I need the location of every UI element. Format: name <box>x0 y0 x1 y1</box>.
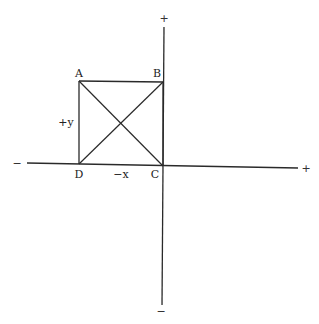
vertical-positive-label: + <box>159 12 168 25</box>
vertex-label-b: B <box>153 67 161 80</box>
diagram-canvas: + − − + A B C D −x +y <box>0 0 319 324</box>
horizontal-negative-label: − <box>12 157 21 170</box>
vertex-label-c: C <box>151 168 159 181</box>
diagram-svg: + − − + A B C D −x +y <box>0 0 319 324</box>
vertex-label-a: A <box>74 67 84 80</box>
edge-ab <box>79 81 163 82</box>
vertex-label-d: D <box>75 168 84 181</box>
minus-x-label: −x <box>113 168 129 181</box>
plus-y-label: +y <box>58 116 74 129</box>
horizontal-positive-label: + <box>301 162 310 175</box>
vertical-negative-label: − <box>156 305 165 318</box>
